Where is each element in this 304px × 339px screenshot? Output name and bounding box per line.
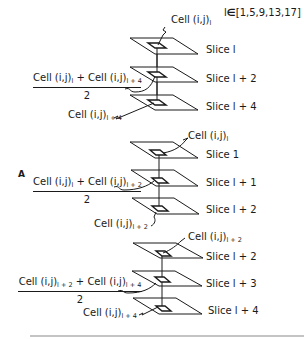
slice-label: Slice l + 2 <box>206 252 257 262</box>
plane-slice-l-plus-3 <box>132 271 202 286</box>
bottom-cell-label: Cell (i,j)l + 4 <box>83 308 137 320</box>
slice-label: Slice l + 2 <box>206 205 257 215</box>
slice-label: Slice l + 3 <box>206 279 257 289</box>
top-cell-label: Cell (i,j)l + 2 <box>188 232 242 244</box>
interpolation-formula: Cell (i,j)l + Cell (i,j)l + 2 2 <box>33 177 141 205</box>
slice-label: Slice l + 2 <box>206 74 257 84</box>
slice-label: Slice 1 <box>206 150 239 160</box>
slice-label: Slice l + 4 <box>206 102 257 112</box>
interpolation-formula: Cell (i,j)l + 2 + Cell (i,j)l + 4 2 <box>18 277 142 305</box>
slice-label: Slice l + 4 <box>208 306 259 316</box>
bottom-cell-label: Cell (i,j)l + 4 <box>68 110 122 122</box>
slice-label: Slice l <box>206 45 236 55</box>
interpolation-formula: Cell (i,j)l + Cell (i,j)l + 4 2 <box>33 73 141 101</box>
slice-label: Slice l + 1 <box>206 178 257 188</box>
bottom-cell-label: Cell (i,j)l + 2 <box>94 219 148 231</box>
label-a: A <box>18 169 25 179</box>
top-cell-label: Cell (i,j)l <box>188 131 228 143</box>
top-cell-label: Cell (i,j)l <box>171 15 211 27</box>
index-set-condition: l∈[1,5,9,13,17] <box>224 7 301 18</box>
